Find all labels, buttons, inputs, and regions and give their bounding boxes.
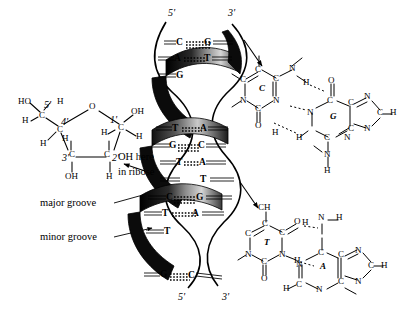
guanine-o6-atom: O (328, 76, 335, 85)
helix-top-left-prime: 5' (168, 8, 175, 18)
cytosine-ring-label: C (259, 84, 265, 93)
sugar-h-c4-label: H (40, 139, 47, 148)
sugar-h-top-label: H (57, 97, 64, 106)
cytosine-n4-hydrogen: H (303, 78, 310, 87)
sugar-c1-prime-number: 1' (110, 115, 117, 125)
guanine-n1-atom: N (307, 108, 314, 117)
sugar-ring-oxygen: O (89, 102, 96, 111)
thymine-c4-atom: C (279, 228, 285, 237)
adenine-c8-atom: C (368, 261, 374, 270)
cytosine-o2-atom: O (255, 121, 262, 130)
helix-base-left-1: C (176, 38, 183, 48)
guanine-c2-atom: C (324, 133, 330, 142)
adenine-c2-hydrogen: H (283, 284, 290, 293)
sugar-h-right-label: H (136, 132, 143, 141)
helix-base-right-8: G (196, 193, 203, 203)
guanine-n9-atom: N (364, 124, 371, 133)
adenine-c8-hydrogen: H (381, 261, 388, 270)
thymine-o2-atom: O (261, 274, 268, 283)
thymine-methyl-label: CH (258, 203, 271, 212)
cytosine-n3-atom: N (273, 96, 280, 105)
helix-base-left-4: T (172, 124, 178, 134)
guanine-n2-hydrogen: H (324, 166, 331, 175)
thymine-c6-atom: C (245, 229, 251, 238)
sugar-oh-right-label: OH (131, 107, 144, 116)
adenine-c4-atom: C (338, 277, 344, 286)
cytosine-c5-atom: C (255, 65, 261, 74)
helix-base-left-8: C (166, 193, 173, 203)
adenine-n6-atom: N (318, 213, 325, 222)
major-groove-label: major groove (40, 198, 96, 209)
helix-base-left-9: T (162, 209, 168, 219)
cytosine-n1-atom: N (240, 96, 247, 105)
thymine-c2-atom: C (261, 257, 267, 266)
guanine-c6-atom: C (327, 96, 333, 105)
sugar-h-bottom-label: H (106, 172, 113, 181)
helix-base-right-2: T (204, 54, 210, 64)
adenine-n9-atom: N (355, 277, 362, 286)
guanine-c8-atom: C (377, 108, 383, 117)
helix-base-right-5: C (198, 141, 205, 151)
helix-base-left-11: G (160, 270, 167, 280)
sugar-c2-atom: C (104, 150, 110, 159)
helix-base-left-2: A (174, 54, 181, 64)
helix-top-right-prime: 3' (228, 8, 235, 18)
guanine-n1-hydrogen: H (296, 133, 303, 142)
helix-base-left-3: G (176, 71, 183, 81)
adenine-c5-atom: C (338, 250, 344, 259)
thymine-n1-atom: N (245, 250, 252, 259)
thymine-ring-label: T (264, 238, 270, 247)
cytosine-o2-hydrogen: H (272, 128, 279, 137)
sugar-c3-atom: C (69, 150, 75, 159)
guanine-n2-atom: N (324, 150, 331, 159)
sugar-c5-prime-number: 5' (44, 100, 51, 110)
cytosine-c6-atom: C (240, 75, 246, 84)
cytosine-c2-atom: C (255, 104, 261, 113)
sugar-oh-bottom-label: OH (65, 172, 78, 181)
adenine-n3-atom: N (316, 285, 323, 294)
sugar-h-c3-label: H (62, 134, 69, 143)
sugar-c1-atom: C (118, 123, 124, 132)
helix-bottom-right-prime: 3' (222, 292, 229, 302)
helix-bottom-left-prime: 5' (178, 292, 185, 302)
guanine-ring-label: G (330, 112, 337, 121)
cytosine-c4-atom: C (273, 74, 279, 83)
cytosine-n4-atom: N (289, 64, 296, 73)
helix-base-rungs (144, 41, 234, 279)
adenine-n6-hydrogen-a: H (302, 218, 309, 227)
thymine-o4-atom: O (294, 217, 301, 226)
sugar-ho-label: HO (18, 97, 31, 106)
adenine-ring-label: A (320, 262, 326, 271)
minor-groove-label: minor groove (40, 232, 97, 243)
sugar-h-left-label: H (22, 116, 29, 125)
guanine-c5-atom: C (348, 98, 354, 107)
gc-hydrogen-bonds (274, 85, 326, 133)
guanine-c8-hydrogen: H (390, 108, 397, 117)
ribose-annotation-line2: in ribose (118, 167, 154, 178)
helix-base-left-10: T (164, 227, 170, 237)
dna-structure-figure: HO 5' H C H 4' C H O 1' C OH H H H 3' C … (0, 0, 401, 320)
thymine-c5-atom: C (262, 219, 268, 228)
helix-base-right-11: C (188, 271, 195, 281)
helix-base-right-9: A (192, 209, 199, 219)
adenine-c2-atom: C (296, 280, 302, 289)
helix-base-left-6: T (176, 158, 182, 168)
thymine-n3-atom: N (279, 250, 286, 259)
guanine-n7-atom: N (364, 92, 371, 101)
adenine-n1-atom: N (296, 260, 303, 269)
ribose-annotation-line1: OH here (118, 152, 154, 163)
guanine-n3-atom: N (344, 133, 351, 142)
sugar-h-c1-left-label: H (101, 128, 108, 137)
helix-base-right-1: G (204, 38, 211, 48)
adenine-n6-hydrogen-b: H (336, 213, 343, 222)
helix-base-right-4: A (200, 124, 207, 134)
helix-base-right-6: A (199, 158, 206, 168)
sugar-c5-atom: C (39, 111, 45, 120)
adenine-n7-atom: N (355, 246, 362, 255)
helix-base-left-5: G (169, 141, 176, 151)
helix-base-left-7: T (200, 175, 206, 185)
adenine-c6-atom: C (318, 248, 324, 257)
